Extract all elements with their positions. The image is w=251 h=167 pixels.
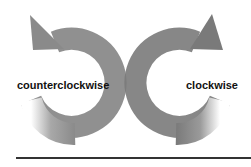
clockwise-arrow-icon [136, 14, 223, 134]
counterclockwise-label: counterclockwise [17, 79, 109, 91]
baseline-divider [16, 157, 251, 159]
clockwise-label: clockwise [186, 79, 238, 91]
rotation-diagram: counterclockwise clockwise [0, 0, 251, 167]
counterclockwise-arrow-icon [30, 15, 115, 134]
